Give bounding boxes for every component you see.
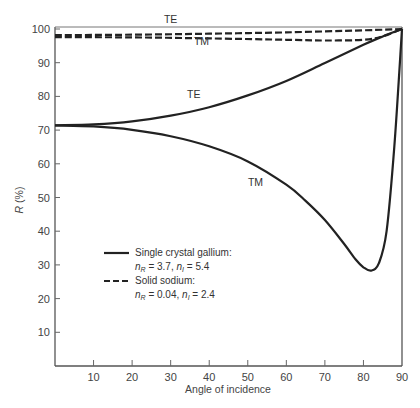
x-tick-label: 60 — [280, 371, 292, 383]
y-tick-label: 20 — [38, 293, 50, 305]
gallium-te-label: TE — [187, 88, 200, 100]
x-tick-label: 30 — [165, 371, 177, 383]
x-tick-label: 90 — [396, 371, 408, 383]
legend-gallium-params: nR = 3.7, nI = 5.4 — [135, 261, 210, 273]
legend-sodium-label: Solid sodium: — [135, 275, 195, 286]
y-tick-label: 90 — [38, 57, 50, 69]
legend-sodium-params: nR = 0.04, nI = 2.4 — [135, 289, 215, 301]
gallium-tm-curve — [55, 29, 402, 271]
y-tick-label: 40 — [38, 225, 50, 237]
y-tick-label: 50 — [38, 192, 50, 204]
x-tick-label: 40 — [203, 371, 215, 383]
y-tick-label: 80 — [38, 90, 50, 102]
y-tick-label: 70 — [38, 124, 50, 136]
x-tick-label: 80 — [357, 371, 369, 383]
x-tick-label: 70 — [319, 371, 331, 383]
y-tick-label: 60 — [38, 158, 50, 170]
reflectance-chart: 102030405060708090100 102030405060708090… — [0, 0, 420, 408]
x-tick-label: 50 — [242, 371, 254, 383]
data-curves — [55, 29, 402, 271]
legend: Single crystal gallium: nR = 3.7, nI = 5… — [104, 247, 232, 301]
sodium-tm-label: TM — [194, 35, 209, 47]
sodium-te-curve — [55, 29, 402, 35]
x-axis-title: Angle of incidence — [185, 383, 271, 395]
sodium-te-label: TE — [164, 13, 177, 25]
y-axis-ticks: 102030405060708090100 — [32, 23, 60, 338]
plot-frame — [55, 27, 402, 366]
gallium-tm-label: TM — [248, 176, 263, 188]
x-tick-label: 10 — [87, 371, 99, 383]
gallium-te-curve — [55, 29, 402, 125]
legend-gallium-label: Single crystal gallium: — [135, 247, 232, 258]
y-tick-label: 10 — [38, 326, 50, 338]
y-tick-label: 100 — [32, 23, 50, 35]
x-tick-label: 20 — [126, 371, 138, 383]
x-axis-ticks: 102030405060708090 — [87, 360, 408, 383]
y-axis-title: R (%) — [13, 187, 25, 214]
y-tick-label: 30 — [38, 259, 50, 271]
